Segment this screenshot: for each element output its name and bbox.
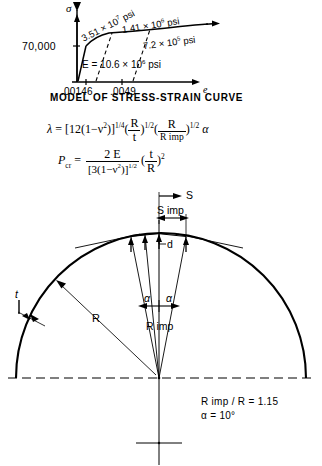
- label-t: t: [15, 288, 18, 300]
- eq2-equals: =: [74, 153, 81, 167]
- eq2-den-power: 1/2: [128, 162, 137, 169]
- eq1-f1-num: R: [128, 117, 140, 130]
- eq2-fraction-t-R: tR: [145, 148, 157, 174]
- chart-caption: MODEL OF STRESS-STRAIN CURVE: [50, 92, 243, 103]
- eq2-power: 2: [161, 152, 165, 161]
- eq2-main-fraction: 2 E [3(1−ν2)]1/2: [86, 148, 139, 175]
- thickness-arrow-b: [30, 314, 39, 322]
- figure-page: σ e 70,000 .00146 .0049 3.51 × 107 psi 1…: [0, 0, 322, 466]
- label-alpha-right: α: [166, 292, 172, 304]
- chart-yaxis-label: σ: [66, 2, 71, 14]
- dim-S-arrow: [173, 193, 182, 199]
- eq1-f2-den: R imp: [158, 131, 186, 142]
- dome-geometry-diagram: S S imp d α α R imp R t R imp / R = 1.15…: [0, 180, 322, 466]
- eq2-lhs-sub: cr: [65, 161, 71, 170]
- eq2-f-den: R: [145, 161, 157, 175]
- eq1-power1: 1/4: [115, 121, 125, 130]
- equation-lambda: λ = [12(1−ν2)]1/4(Rt)1/2(RR imp)1/2 α: [47, 117, 209, 143]
- eq1-fraction-R-Rimp: RR imp: [158, 118, 186, 142]
- slope-label-3-exp: 5: [177, 35, 181, 41]
- note-alpha-value: α = 10°: [201, 410, 235, 421]
- eq1-power3: 1/2: [190, 121, 200, 130]
- slope-label-2-unit: psi: [166, 15, 180, 28]
- label-S: S: [186, 189, 193, 201]
- eq1-power2: 1/2: [144, 121, 154, 130]
- modulus-label-text: E = 10.6 × 10: [82, 59, 142, 70]
- stress-strain-chart: σ e 70,000 .00146 .0049 3.51 × 107 psi 1…: [0, 0, 322, 108]
- eq2-numerator: 2 E: [86, 148, 139, 161]
- bottom-center-dot: [158, 442, 160, 444]
- modulus-label-unit: psi: [148, 59, 161, 70]
- slope-label-2-exp: 6: [161, 17, 165, 23]
- modulus-label-exp: 6: [142, 58, 145, 65]
- eq2-den-inner: 3(1−ν: [92, 162, 118, 174]
- slope-label-3-unit: psi: [183, 34, 196, 46]
- eq1-tail-alpha: α: [202, 122, 208, 136]
- label-R-imp: R imp: [146, 320, 173, 332]
- equation-pcr: Pcr = 2 E [3(1−ν2)]1/2 (tR)2: [58, 148, 165, 175]
- eq1-lhs: λ: [47, 122, 52, 136]
- eq1-f2-num: R: [158, 118, 186, 131]
- label-R: R: [92, 312, 100, 324]
- radius-R-arrowhead: [56, 280, 66, 289]
- eq1-fraction-R-t: Rt: [128, 117, 140, 143]
- label-alpha-left: α: [144, 292, 150, 304]
- eq1-f1-den: t: [128, 130, 140, 144]
- dim-alpha-arrow-right: [171, 303, 180, 309]
- radius-R-line: [60, 284, 156, 375]
- eq2-f-num: t: [145, 148, 157, 161]
- tangent-right: [178, 234, 243, 248]
- note-rimp-ratio: R imp / R = 1.15: [201, 396, 278, 407]
- label-S-imp: S imp: [157, 204, 184, 216]
- label-d: d: [167, 238, 173, 250]
- modulus-label: E = 10.6 × 106 psi: [82, 58, 161, 70]
- eq1-inner: 12(1−ν: [69, 122, 103, 136]
- eq1-equals: =: [55, 122, 62, 136]
- eq2-denominator: [3(1−ν2)]1/2: [86, 161, 139, 175]
- chart-ytick-70000: 70,000: [22, 40, 56, 52]
